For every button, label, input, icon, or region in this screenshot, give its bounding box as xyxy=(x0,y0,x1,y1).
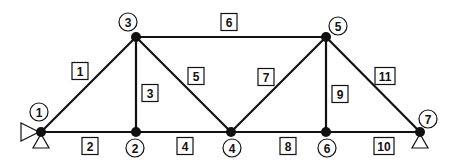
node-number: 6 xyxy=(324,142,331,156)
joint-6 xyxy=(321,127,331,137)
node-label-3: 3 xyxy=(119,13,137,31)
element-number: 11 xyxy=(379,70,392,84)
member-11 xyxy=(326,37,420,132)
element-number: 10 xyxy=(377,140,391,154)
joint-4 xyxy=(226,127,236,137)
node-number: 4 xyxy=(229,142,236,156)
element-number: 1 xyxy=(77,65,84,79)
joint-7 xyxy=(415,127,425,137)
element-label-3: 3 xyxy=(142,85,158,102)
element-label-11: 11 xyxy=(375,68,395,85)
element-label-10: 10 xyxy=(374,138,394,155)
node-label-5: 5 xyxy=(329,17,347,35)
element-label-2: 2 xyxy=(82,138,98,155)
element-number: 3 xyxy=(147,87,154,101)
element-label-1: 1 xyxy=(72,63,88,80)
node-number: 1 xyxy=(36,106,43,120)
node-label-4: 4 xyxy=(223,139,241,157)
element-label-7: 7 xyxy=(258,69,274,86)
joint-3 xyxy=(131,32,141,42)
truss-diagram: 1234567891011 1234567 xyxy=(0,0,456,165)
member-1 xyxy=(41,37,136,132)
node-number: 3 xyxy=(125,16,132,30)
element-number: 9 xyxy=(337,88,344,102)
node-number: 5 xyxy=(335,20,342,34)
node-number: 7 xyxy=(425,113,432,127)
node-label-2: 2 xyxy=(126,139,144,157)
node-label-6: 6 xyxy=(318,139,336,157)
element-label-9: 9 xyxy=(332,86,348,103)
element-number: 8 xyxy=(285,140,292,154)
element-label-4: 4 xyxy=(177,138,193,155)
node-number: 2 xyxy=(132,142,139,156)
joint-2 xyxy=(131,127,141,137)
node-label-1: 1 xyxy=(30,103,48,121)
element-label-8: 8 xyxy=(280,138,296,155)
member-7 xyxy=(231,37,326,132)
element-number: 5 xyxy=(193,70,200,84)
element-number: 6 xyxy=(226,16,233,30)
truss-joints xyxy=(36,32,425,137)
element-label-6: 6 xyxy=(221,14,237,31)
joint-1 xyxy=(36,127,46,137)
joint-5 xyxy=(321,32,331,42)
truss-members xyxy=(41,37,420,132)
element-number: 2 xyxy=(87,140,94,154)
element-label-5: 5 xyxy=(188,68,204,85)
element-number: 7 xyxy=(263,71,270,85)
element-number: 4 xyxy=(182,140,189,154)
node-label-7: 7 xyxy=(419,110,437,128)
